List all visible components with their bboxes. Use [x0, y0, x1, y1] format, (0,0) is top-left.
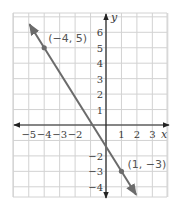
point-label: (−4, 5) [48, 32, 87, 45]
y-axis-label: y [110, 11, 118, 24]
data-point [119, 169, 124, 174]
x-tick-label: 1 [118, 129, 124, 140]
y-tick-label: 3 [97, 74, 103, 85]
y-tick-label: 4 [97, 58, 103, 69]
y-tick-label: 1 [97, 105, 103, 116]
x-tick-label: 2 [134, 129, 140, 140]
coordinate-plane: −5−4−3−2123654321−2−3−4 (−4, 5)(1, −3) x… [0, 0, 177, 216]
y-tick-label: 2 [97, 89, 103, 100]
x-axis-label: x [161, 128, 168, 141]
y-tick-label: −2 [88, 151, 103, 162]
y-tick-label: −3 [88, 166, 103, 177]
y-tick-label: 6 [97, 27, 103, 38]
x-tick-label: −5 [21, 129, 36, 140]
x-tick-label: −2 [68, 129, 83, 140]
x-tick-label: −4 [37, 129, 52, 140]
data-point [42, 45, 47, 50]
x-tick-label: 3 [149, 129, 155, 140]
x-tick-label: −3 [52, 129, 67, 140]
point-label: (1, −3) [127, 158, 166, 171]
y-tick-label: −4 [88, 182, 103, 193]
y-tick-label: 5 [97, 43, 103, 54]
